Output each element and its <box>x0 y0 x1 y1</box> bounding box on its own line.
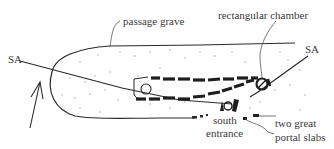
south-entrance-label-line1: south <box>213 114 237 126</box>
portal-slabs-label-line1: two great <box>275 117 316 129</box>
south-entrance-label-line2: entrance <box>206 127 243 139</box>
mound-bottom-dashes <box>192 114 208 119</box>
south-entrance-marker <box>220 99 239 112</box>
sa-left-label: SA <box>8 53 22 65</box>
mound-top-edge <box>110 43 295 46</box>
passage-grave-diagram: passage grave rectangular chamber SA SA … <box>0 0 334 149</box>
passage-grave-label: passage grave <box>123 15 184 27</box>
leader-portal-slabs-2 <box>245 119 274 134</box>
mound-outline <box>50 46 195 119</box>
arrow-up-icon <box>30 82 43 128</box>
portal-slabs-label-line2: portal slabs <box>275 131 325 143</box>
chamber-stones-upper <box>151 78 258 80</box>
rectangular-chamber-label: rectangular chamber <box>218 9 308 21</box>
sa-axis-line <box>20 61 180 100</box>
portal-slab-2 <box>253 114 259 117</box>
leader-passage-grave <box>110 21 120 46</box>
sa-axis-line-right <box>250 56 308 97</box>
leader-rectangular-chamber <box>260 21 276 78</box>
chamber-stones-lower <box>136 80 254 99</box>
sa-right-label: SA <box>305 43 319 55</box>
